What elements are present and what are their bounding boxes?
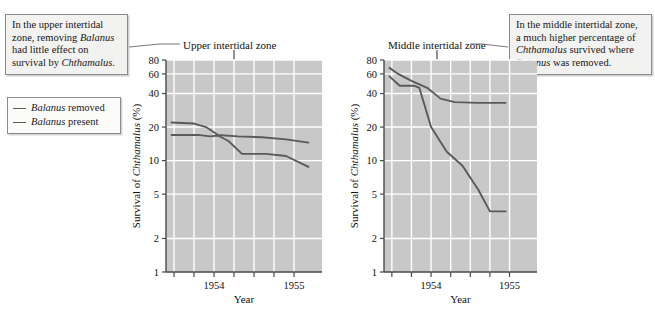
figure-root: In the upper intertidal zone, removing B… bbox=[0, 0, 655, 324]
y-axis-tick-label: 1 bbox=[154, 267, 159, 278]
y-axis-tick-label: 1 bbox=[372, 267, 377, 278]
y-axis-tick-label: 2 bbox=[154, 233, 159, 244]
legend-line-swatch-icon bbox=[13, 122, 26, 123]
legend-item-balanus-present: Balanus present bbox=[13, 115, 115, 129]
x-axis-tick-label: 1954 bbox=[421, 280, 443, 291]
callout-upper-line-4: survival by Chthamalus. bbox=[12, 57, 121, 70]
legend-item-balanus-removed: Balanus removed bbox=[13, 101, 115, 115]
y-axis-title: Survival of Chthamalus (%) bbox=[348, 103, 361, 228]
legend: Balanus removed Balanus present bbox=[7, 97, 121, 134]
legend-line-swatch-icon bbox=[13, 108, 26, 109]
y-axis-tick-label: 80 bbox=[149, 55, 160, 66]
y-axis-tick-label: 2 bbox=[372, 233, 377, 244]
y-axis-tick-label: 40 bbox=[149, 88, 160, 99]
y-axis-tick-label: 10 bbox=[149, 155, 160, 166]
leader-line-upper-callout bbox=[129, 44, 180, 47]
callout-upper-line-3: had little effect on bbox=[12, 44, 121, 57]
y-axis-tick-label: 5 bbox=[154, 189, 159, 200]
y-axis-tick-label: 10 bbox=[367, 155, 378, 166]
callout-upper-line-2: zone, removing Balanus bbox=[12, 32, 121, 45]
x-axis-title: Year bbox=[450, 293, 471, 305]
x-axis-tick-label: 1955 bbox=[284, 280, 305, 291]
x-axis-title: Year bbox=[234, 293, 255, 305]
y-axis-tick-label: 80 bbox=[367, 55, 378, 66]
chart-svg-upper: 125102040608019541955YearSurvival of Cht… bbox=[120, 52, 335, 317]
legend-item-label: Balanus present bbox=[31, 115, 98, 129]
chart-panel-middle-intertidal: 125102040608019541955YearSurvival of Cht… bbox=[340, 52, 552, 317]
x-axis-tick-label: 1954 bbox=[204, 280, 226, 291]
y-axis-tick-label: 60 bbox=[149, 69, 160, 80]
y-axis-tick-label: 40 bbox=[367, 88, 378, 99]
y-axis-title: Survival of Chthamalus (%) bbox=[130, 103, 143, 228]
legend-item-label: Balanus removed bbox=[31, 101, 105, 115]
y-axis-tick-label: 20 bbox=[149, 122, 160, 133]
panel-title-upper: Upper intertidal zone bbox=[183, 39, 276, 51]
y-axis-tick-label: 5 bbox=[372, 189, 377, 200]
y-axis-tick-label: 60 bbox=[367, 69, 378, 80]
x-axis-tick-label: 1955 bbox=[499, 280, 520, 291]
panel-title-middle: Middle intertidal zone bbox=[388, 39, 486, 51]
chart-svg-middle: 125102040608019541955YearSurvival of Cht… bbox=[340, 52, 552, 317]
callout-upper-intertidal: In the upper intertidal zone, removing B… bbox=[5, 14, 128, 75]
callout-middle-line-2: a much higher percentage of bbox=[516, 32, 645, 45]
chart-panel-upper-intertidal: 125102040608019541955YearSurvival of Cht… bbox=[120, 52, 335, 317]
callout-middle-line-1: In the middle intertidal zone, bbox=[516, 19, 645, 32]
plot-area bbox=[166, 60, 322, 272]
y-axis-tick-label: 20 bbox=[367, 122, 378, 133]
plot-area bbox=[384, 60, 537, 272]
callout-upper-line-1: In the upper intertidal bbox=[12, 19, 121, 32]
